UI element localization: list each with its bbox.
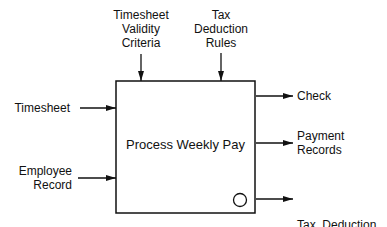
output-label-payment: Payment Records — [297, 129, 344, 157]
control-label-tax-rules: Tax Deduction Rules — [181, 8, 261, 50]
tunnel-circle-icon — [234, 194, 247, 207]
label-line: Payment — [297, 129, 344, 143]
label-line: Deduction — [181, 22, 261, 36]
label-line: Tax — [181, 8, 261, 22]
input-label-timesheet: Timesheet — [0, 101, 70, 115]
label-line: Tax Deduction — [297, 218, 376, 227]
activity-label: Process Weekly Pay — [116, 138, 255, 152]
label-line: Rules — [181, 36, 261, 50]
label-line: Employee — [0, 164, 72, 178]
output-label-check: Check — [297, 89, 331, 103]
label-line: Timesheet — [101, 8, 181, 22]
label-line: Records — [297, 143, 344, 157]
label-line: Criteria — [101, 36, 181, 50]
input-label-employee: Employee Record — [0, 164, 72, 192]
output-label-tax-record: Tax Deduction Record — [297, 190, 376, 227]
control-label-validity: Timesheet Validity Criteria — [101, 8, 181, 50]
label-line: Validity — [101, 22, 181, 36]
label-line: Record — [0, 178, 72, 192]
